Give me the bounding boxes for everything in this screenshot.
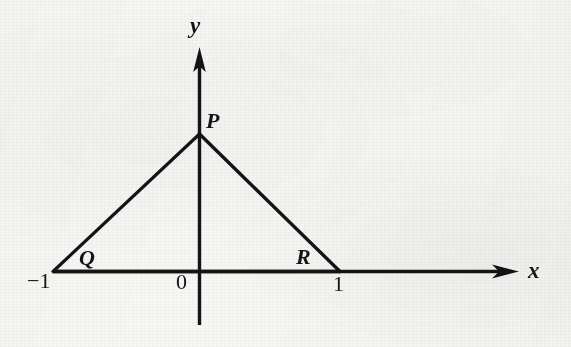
triangle-side-qp	[53, 134, 200, 272]
y-axis	[193, 47, 206, 325]
x-tick-label-one: 1	[333, 273, 344, 295]
coordinate-plane-drawing	[0, 0, 571, 347]
figure-canvas: y x P Q R −1 0 1	[0, 0, 571, 347]
y-axis-label: y	[190, 14, 200, 37]
triangle-side-pr	[200, 134, 341, 272]
x-axis-label: x	[528, 259, 540, 282]
origin-label-zero: 0	[176, 271, 187, 293]
vertex-label-r: R	[296, 246, 311, 268]
vertex-label-q: Q	[79, 247, 95, 269]
x-tick-label-negative-one: −1	[27, 270, 50, 292]
vertex-label-p: P	[206, 110, 219, 132]
